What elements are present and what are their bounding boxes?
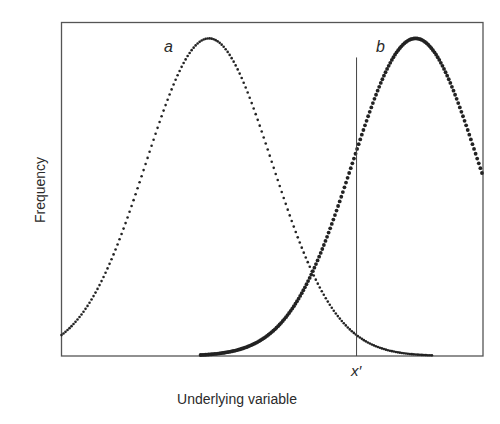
curve-b — [199, 36, 484, 356]
chart: a b x′ Underlying variable Frequency — [0, 0, 500, 424]
x-axis-label: Underlying variable — [177, 391, 297, 407]
curve-b-label: b — [376, 38, 385, 55]
curve-a — [60, 37, 433, 357]
plot-frame — [62, 23, 484, 357]
threshold-label: x′ — [350, 362, 363, 379]
y-axis-label: Frequency — [32, 157, 48, 223]
curve-a-label: a — [164, 38, 173, 55]
